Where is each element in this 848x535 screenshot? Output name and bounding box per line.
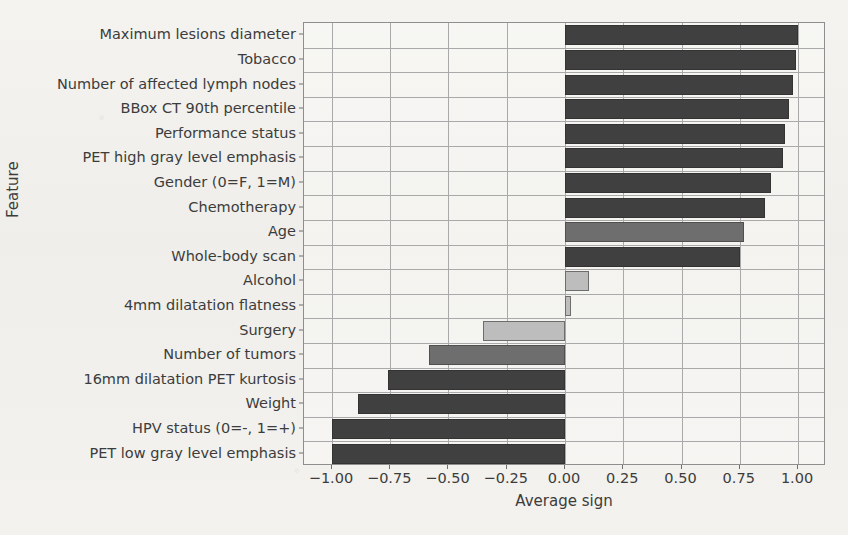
gridline-y-6: [304, 171, 824, 172]
y-tick-label: Age: [268, 223, 296, 239]
gridline-y-5: [304, 146, 824, 147]
gridline-y-15: [304, 392, 824, 393]
x-axis-title: Average sign: [303, 492, 825, 510]
x-tick-label: 1.00: [781, 470, 813, 486]
x-tick-label: 0.00: [548, 470, 580, 486]
y-tick-mark: [299, 34, 303, 35]
x-tick-label: −0.75: [367, 470, 411, 486]
y-tick-label: Gender (0=F, 1=M): [154, 174, 296, 190]
gridline-y-2: [304, 72, 824, 73]
y-tick-label: Chemotherapy: [188, 199, 296, 215]
gridline-x-8: [798, 23, 799, 464]
x-tick-label: 0.75: [723, 470, 755, 486]
bar: [565, 247, 740, 267]
bar: [332, 444, 565, 464]
y-tick-mark: [299, 428, 303, 429]
y-tick-label: Weight: [245, 395, 296, 411]
gridline-y-4: [304, 121, 824, 122]
y-tick-label: PET high gray level emphasis: [83, 149, 296, 165]
bar: [332, 419, 565, 439]
y-tick-mark: [299, 452, 303, 453]
x-tick-mark: [797, 465, 798, 469]
y-tick-label: Whole-body scan: [171, 248, 296, 264]
y-tick-label: 4mm dilatation flatness: [124, 297, 296, 313]
y-tick-label: Performance status: [155, 125, 296, 141]
y-tick-label: Maximum lesions diameter: [99, 26, 296, 42]
gridline-y-12: [304, 318, 824, 319]
bar: [565, 99, 789, 119]
gridline-y-11: [304, 294, 824, 295]
y-tick-label: BBox CT 90th percentile: [120, 100, 296, 116]
x-tick-mark: [506, 465, 507, 469]
gridline-y-9: [304, 245, 824, 246]
gridline-y-14: [304, 368, 824, 369]
y-tick-mark: [299, 378, 303, 379]
bar: [565, 25, 798, 45]
bar: [565, 75, 793, 95]
gridline-y-16: [304, 417, 824, 418]
gridline-y-3: [304, 97, 824, 98]
gridline-y-17: [304, 441, 824, 442]
gridline-y-13: [304, 343, 824, 344]
y-tick-label: Tobacco: [238, 51, 296, 67]
y-tick-mark: [299, 231, 303, 232]
x-tick-label: −1.00: [309, 470, 353, 486]
y-tick-mark: [299, 255, 303, 256]
x-tick-label: −0.25: [484, 470, 528, 486]
y-tick-mark: [299, 280, 303, 281]
bar: [565, 296, 571, 316]
y-tick-label: HPV status (0=-, 1=+): [132, 420, 296, 436]
x-tick-mark: [739, 465, 740, 469]
bar: [565, 148, 783, 168]
x-tick-label: −0.50: [425, 470, 469, 486]
y-tick-label: 16mm dilatation PET kurtosis: [83, 371, 296, 387]
x-tick-label: 0.50: [664, 470, 696, 486]
y-tick-mark: [299, 206, 303, 207]
x-tick-mark: [331, 465, 332, 469]
plot-area: [303, 22, 825, 465]
bar: [565, 124, 785, 144]
gridline-y-10: [304, 269, 824, 270]
bar: [429, 345, 565, 365]
y-tick-label: Number of tumors: [163, 346, 296, 362]
x-tick-mark: [389, 465, 390, 469]
gridline-x-0: [332, 23, 333, 464]
y-tick-mark: [299, 354, 303, 355]
x-tick-mark: [681, 465, 682, 469]
gridline-y-1: [304, 48, 824, 49]
y-tick-mark: [299, 181, 303, 182]
y-tick-label: Surgery: [239, 322, 296, 338]
x-tick-mark: [447, 465, 448, 469]
bar: [565, 271, 589, 291]
y-axis-tick-labels: Maximum lesions diameterTobaccoNumber of…: [0, 0, 296, 535]
x-tick-mark: [622, 465, 623, 469]
y-tick-label: Alcohol: [243, 272, 296, 288]
bar: [565, 198, 765, 218]
gridline-y-8: [304, 220, 824, 221]
y-tick-mark: [299, 403, 303, 404]
y-tick-mark: [299, 305, 303, 306]
y-tick-mark: [299, 108, 303, 109]
y-tick-mark: [299, 83, 303, 84]
y-tick-mark: [299, 157, 303, 158]
bar: [565, 50, 796, 70]
x-tick-label: 0.25: [606, 470, 638, 486]
y-tick-mark: [299, 132, 303, 133]
bar: [483, 321, 565, 341]
bar: [388, 370, 565, 390]
x-tick-mark: [564, 465, 565, 469]
bar: [358, 394, 565, 414]
y-tick-label: Number of affected lymph nodes: [57, 76, 296, 92]
y-tick-mark: [299, 329, 303, 330]
bar: [565, 173, 771, 193]
y-tick-mark: [299, 58, 303, 59]
gridline-y-7: [304, 195, 824, 196]
bar: [565, 222, 744, 242]
bar-chart-figure: Feature Maximum lesions diameterTobaccoN…: [0, 0, 848, 535]
y-tick-label: PET low gray level emphasis: [89, 445, 296, 461]
